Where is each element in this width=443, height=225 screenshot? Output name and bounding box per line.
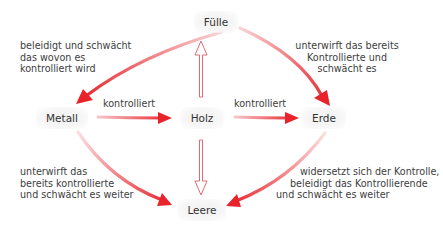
arrow-metall-to-holz xyxy=(98,112,172,124)
arrow-holz-to-erde xyxy=(235,112,299,124)
label-line: und schwächt es weiter xyxy=(20,189,134,201)
label-metall-leere: unterwirft das bereits kontrollierte und… xyxy=(20,166,134,201)
arrow-holz-to-leere xyxy=(195,140,207,195)
label-line: und schwächt es weiter xyxy=(276,189,439,201)
label-fuelle-metall: beleidigt und schwächt das wovon es kont… xyxy=(20,40,131,75)
label-line: widersetzt sich der Kontrolle, xyxy=(276,166,439,178)
label-line: Kontrollierte und xyxy=(272,52,422,64)
label-line: unterwirft das xyxy=(20,166,134,178)
node-fuelle: Fülle xyxy=(194,11,238,33)
label-line: beleidigt das Kontrollierende xyxy=(276,178,439,190)
label-line: bereits kontrollierte xyxy=(20,178,134,190)
label-erde-leere: widersetzt sich der Kontrolle, beleidigt… xyxy=(276,166,439,201)
label-line: unterwirft das bereits xyxy=(272,40,422,52)
five-elements-diagram: Fülle Metall Holz Erde Leere beleidigt u… xyxy=(0,0,443,225)
label-holz-erde: kontrolliert xyxy=(234,98,286,110)
label-fuelle-erde: unterwirft das bereits Kontrollierte und… xyxy=(272,40,422,75)
label-metall-holz: kontrolliert xyxy=(103,98,155,110)
label-line: beleidigt und schwächt xyxy=(20,40,131,52)
label-line: das wovon es xyxy=(20,52,131,64)
node-metall: Metall xyxy=(36,107,88,129)
label-line: kontrolliert wird xyxy=(20,63,131,75)
node-erde: Erde xyxy=(302,107,346,129)
label-line: schwächt es xyxy=(272,63,422,75)
arrow-holz-to-fuelle xyxy=(195,41,207,97)
node-leere: Leere xyxy=(177,199,226,221)
node-holz: Holz xyxy=(181,107,224,129)
